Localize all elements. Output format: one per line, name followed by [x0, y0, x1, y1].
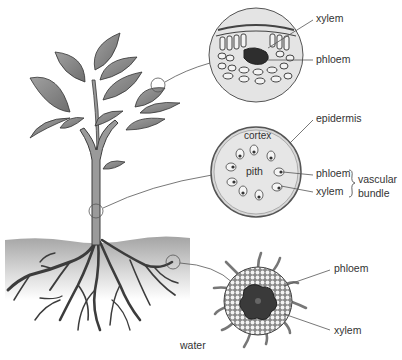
- leaf-cross-section: [209, 8, 303, 102]
- stem-epidermis-label: epidermis: [316, 113, 362, 124]
- stem-phloem-label: phloem: [316, 168, 350, 179]
- water-label: water: [180, 340, 206, 351]
- leaves: [30, 33, 180, 169]
- stem-cortex-label: cortex: [244, 131, 271, 141]
- stem-xylem-label: xylem: [316, 186, 343, 197]
- root-cross-section: [214, 253, 306, 347]
- leaf-xylem-label: xylem: [316, 13, 343, 24]
- vascular-label: vascular: [358, 174, 397, 185]
- stem-pith-label: pith: [246, 166, 263, 177]
- root-xylem-label: xylem: [334, 325, 361, 336]
- root-phloem-label: phloem: [334, 263, 368, 274]
- leaf-phloem-label: phloem: [316, 54, 350, 65]
- plant-transport-diagram: xylem phloem epidermis cortex pith phloe…: [0, 0, 402, 360]
- bundle-label: bundle: [358, 188, 390, 199]
